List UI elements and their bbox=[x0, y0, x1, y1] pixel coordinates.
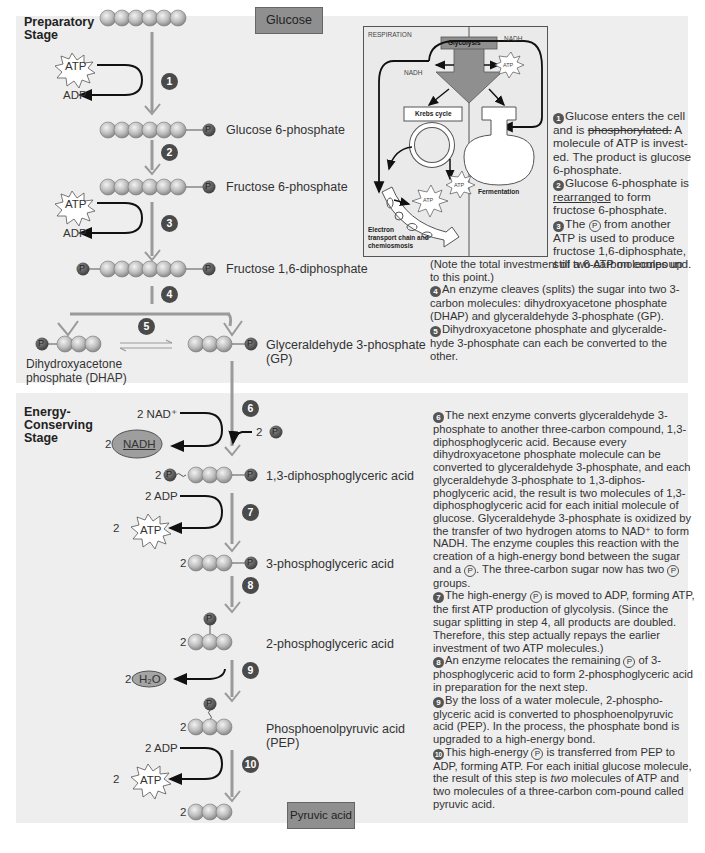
glucose-molecule bbox=[100, 10, 186, 26]
dhap-molecule bbox=[36, 336, 102, 352]
phosphate-icon: P bbox=[531, 748, 543, 760]
step-badge-8: 8 bbox=[242, 577, 259, 594]
phosphate-icon: P bbox=[667, 565, 679, 577]
step-badge-1: 1 bbox=[161, 73, 178, 90]
f16dp-molecule bbox=[77, 261, 216, 277]
label-line: transport chain and bbox=[368, 234, 429, 242]
label-pga3: 3-phosphoglyceric acid bbox=[266, 557, 394, 571]
step-badge-7: 7 bbox=[433, 592, 444, 603]
inset-atp: ATP bbox=[503, 62, 513, 68]
step-badge-2: 2 bbox=[161, 144, 178, 161]
label-line: Electron bbox=[368, 226, 429, 234]
text: Glucose 6-phosphate is bbox=[565, 176, 689, 190]
phosphate-icon: P bbox=[623, 656, 635, 668]
text: Dihydroxyacetone phosphate and glycerald… bbox=[430, 323, 667, 362]
inset-nadh-right: NADH bbox=[504, 35, 522, 42]
stage-label-line: Stage bbox=[24, 432, 93, 445]
inset-glycolysis: Glycolysis bbox=[448, 39, 481, 47]
phosphate-label: P bbox=[206, 613, 212, 623]
label-f16dp: Fructose 1,6-diphosphate bbox=[226, 262, 368, 276]
atp-coefficient: 2 bbox=[113, 522, 119, 534]
phosphate-label: P bbox=[205, 124, 211, 134]
h2o-label: H₂O bbox=[139, 673, 161, 685]
description-step-4: 4An enzyme cleaves (splits) the sugar in… bbox=[430, 283, 685, 322]
step-badge-10: 10 bbox=[242, 756, 259, 773]
text-strikethrough: phosphorylated. bbox=[588, 123, 672, 137]
label-g6p: Glucose 6-phosphate bbox=[226, 123, 345, 137]
atp-coefficient: 2 bbox=[113, 773, 119, 785]
respiration-inset-graphics bbox=[364, 27, 547, 256]
atp-label: ATP bbox=[65, 60, 87, 72]
atp-label: ATP bbox=[140, 774, 162, 786]
adp-label: 2 ADP bbox=[145, 490, 178, 502]
text: This high-energy bbox=[445, 746, 531, 758]
inset-nadh-left: NADH bbox=[404, 69, 422, 76]
g6p-molecule bbox=[100, 122, 216, 138]
step-badge-4: 4 bbox=[161, 286, 178, 303]
nadh-label: NADH bbox=[123, 438, 156, 450]
stage-label-line: Stage bbox=[24, 29, 94, 42]
step-badge-5: 5 bbox=[138, 318, 155, 335]
step-badge-5: 5 bbox=[430, 326, 441, 337]
phosphate-label: P bbox=[272, 426, 278, 436]
label-pga2: 2-phosphoglyceric acid bbox=[266, 637, 394, 651]
label-line: (GP) bbox=[266, 352, 426, 366]
phosphate-label: P bbox=[247, 469, 253, 479]
phosphate-label: P bbox=[206, 698, 212, 708]
inset-atp: ATP bbox=[454, 182, 464, 188]
label-dpga: 1,3-diphosphoglyceric acid bbox=[266, 469, 414, 483]
phosphate-coefficient: 2 bbox=[256, 426, 262, 438]
label-line: phosphate (DHAP) bbox=[26, 371, 127, 385]
inset-title: RESPIRATION bbox=[368, 31, 412, 38]
text-underlined: rearranged bbox=[553, 190, 611, 204]
phosphate-label: P bbox=[247, 338, 253, 348]
atp-label: ATP bbox=[140, 524, 162, 536]
adp-label: 2 ADP bbox=[145, 742, 178, 754]
label-pep: Phosphoenolpyruvic acid (PEP) bbox=[266, 722, 405, 750]
text: groups. bbox=[433, 577, 470, 589]
step-badge-9: 9 bbox=[433, 697, 444, 708]
inset-fermentation: Fermentation bbox=[478, 188, 519, 196]
nad-label: 2 NAD⁺ bbox=[137, 407, 177, 421]
phosphate-label: P bbox=[205, 263, 211, 273]
label-gp: Glyceraldehyde 3-phosphate (GP) bbox=[266, 338, 426, 366]
phosphate-label: P bbox=[79, 263, 85, 273]
phosphate-label: P bbox=[247, 557, 253, 567]
inset-krebs: Krebs cycle bbox=[415, 110, 452, 118]
description-steps-6-10: 6The next enzyme converts glyceraldehyde… bbox=[433, 409, 695, 811]
coefficient: 2 bbox=[155, 469, 161, 481]
stage-label-energy: Energy- Conserving Stage bbox=[24, 406, 93, 445]
text: By the loss of a water molecule, 2-phosp… bbox=[433, 694, 679, 745]
phosphate-icon: P bbox=[464, 565, 476, 577]
step-badge-6: 6 bbox=[242, 400, 259, 417]
adp-label: ADP bbox=[63, 227, 87, 239]
step-badge-3: 3 bbox=[161, 215, 178, 232]
label-line: chemiosmosis bbox=[368, 242, 429, 250]
description-step-7: 7The high-energy P is moved to ADP, form… bbox=[433, 589, 695, 654]
coefficient: 2 bbox=[180, 636, 186, 648]
description-step-10: 10This high-energy P is transferred from… bbox=[433, 746, 695, 811]
text: The high-energy bbox=[445, 589, 530, 601]
description-step-5: 5Dihydroxyacetone phosphate and glyceral… bbox=[430, 323, 685, 362]
step-badge-9: 9 bbox=[242, 662, 259, 679]
description-steps-1-3: 1Glucose enters the cell and is phosphor… bbox=[553, 110, 693, 272]
coefficient: 2 bbox=[180, 557, 186, 569]
atp-starburst-icons-energy bbox=[131, 514, 171, 799]
nadh-coefficient: 2 bbox=[105, 438, 111, 450]
step-badge-6: 6 bbox=[433, 412, 444, 423]
description-note: (Note the total investment of two ATP mo… bbox=[430, 258, 685, 283]
phosphate-label: P bbox=[38, 338, 44, 348]
phosphate-label: P bbox=[166, 469, 172, 479]
text: The next enzyme converts glyceraldehyde … bbox=[433, 409, 691, 575]
coefficient: 2 bbox=[180, 806, 186, 818]
description-step-8: 8An enzyme relocates the remaining P of … bbox=[433, 654, 695, 693]
h2o-coefficient: 2 bbox=[125, 673, 131, 685]
f6p-molecule bbox=[100, 179, 216, 195]
phosphate-label: P bbox=[205, 181, 211, 191]
label-line: Phosphoenolpyruvic acid bbox=[266, 722, 405, 736]
description-step-1: 1Glucose enters the cell and is phosphor… bbox=[553, 110, 693, 177]
text: The bbox=[565, 217, 589, 231]
glucose-box: Glucose bbox=[255, 7, 323, 34]
inset-etc: Electron transport chain and chemiosmosi… bbox=[368, 226, 429, 250]
text: An enzyme relocates the remaining bbox=[445, 654, 623, 666]
